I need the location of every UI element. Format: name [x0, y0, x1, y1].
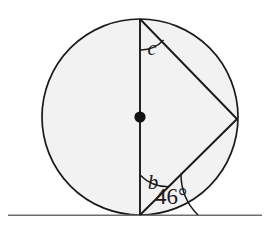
angle-label-c: c	[148, 37, 157, 59]
geometry-figure: c b 46°	[0, 0, 270, 229]
geometry-canvas: c b 46°	[0, 0, 270, 229]
circle-center-dot	[134, 111, 145, 122]
angle-label-46: 46°	[155, 184, 187, 209]
